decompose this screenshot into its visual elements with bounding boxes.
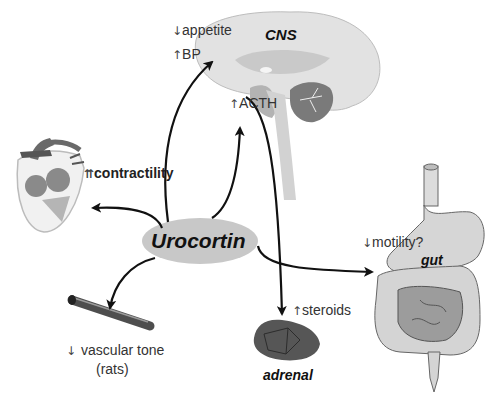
effect-motility: ↓motility? bbox=[362, 234, 423, 251]
arrow-to-acth bbox=[212, 128, 240, 218]
urocortin-label: Urocortin bbox=[151, 229, 246, 253]
adrenal-illustration bbox=[254, 320, 320, 361]
arrow-to-heart bbox=[93, 208, 162, 228]
effect-acth: ↑ACTH bbox=[229, 95, 277, 112]
organ-label-gut: gut bbox=[421, 252, 443, 268]
organ-label-cns: CNS bbox=[265, 27, 297, 43]
arrow-to-gut bbox=[258, 246, 372, 272]
vessel-note: (rats) bbox=[96, 361, 129, 377]
blood-vessel-illustration bbox=[68, 295, 150, 326]
effect-appetite: ↓appetite bbox=[172, 22, 232, 39]
heart-illustration bbox=[17, 138, 84, 232]
urocortin-diagram: ↓appetite ↑BP CNS ↑ACTH ⇈contractility U… bbox=[0, 0, 496, 401]
arrow-to-cns-appetite bbox=[165, 62, 212, 222]
arrow-to-vessel bbox=[110, 258, 155, 308]
up-arrow-icon: ↑ bbox=[172, 48, 182, 62]
down-arrow-icon: ↓ bbox=[66, 344, 76, 358]
effect-steroids: ↑steroids bbox=[292, 302, 351, 319]
up-arrow-icon: ↑ bbox=[229, 97, 239, 111]
effect-bp: ↑BP bbox=[172, 46, 201, 63]
gut-illustration bbox=[375, 164, 484, 392]
down-arrow-icon: ↓ bbox=[172, 24, 182, 38]
double-up-arrow-icon: ⇈ bbox=[84, 167, 94, 181]
organ-label-adrenal: adrenal bbox=[263, 367, 313, 383]
down-arrow-icon: ↓ bbox=[362, 236, 372, 250]
effect-contractility: ⇈contractility bbox=[84, 165, 173, 182]
up-arrow-icon: ↑ bbox=[292, 304, 302, 318]
effect-vascular-tone: ↓vascular tone bbox=[66, 342, 164, 359]
